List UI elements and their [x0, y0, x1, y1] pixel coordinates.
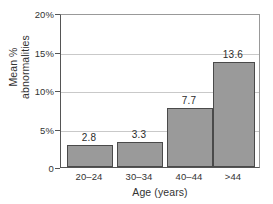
y-tick-label-15: 15% [24, 47, 54, 58]
bar-value-20-24: 2.8 [66, 132, 112, 143]
y-axis-tick-labels: 20% 15% 10% 5% 0 [22, 0, 54, 204]
y-tick-label-20: 20% [24, 9, 54, 20]
y-tick-label-5: 5% [24, 124, 54, 135]
bar-value-30-34: 3.3 [116, 129, 162, 140]
x-axis-title: Age (years) [60, 186, 260, 198]
x-tick-label-20-24: 20–24 [66, 171, 112, 182]
bar-value-over-44: 13.6 [212, 49, 254, 60]
y-tickmark-20 [55, 14, 60, 15]
y-tickmark-15 [55, 53, 60, 54]
bar-chart: Mean % abnormalities 20% 15% 10% 5% 0 2.… [0, 0, 273, 204]
y-axis-tick-marks [60, 14, 260, 168]
y-tick-label-0: 0 [24, 163, 54, 174]
y-tickmark-0 [55, 168, 60, 169]
x-tick-label-over-44: >44 [212, 171, 254, 182]
y-tickmark-5 [55, 130, 60, 131]
bar-value-40-44: 7.7 [166, 95, 212, 106]
x-tick-label-40-44: 40–44 [166, 171, 212, 182]
y-tickmark-10 [55, 91, 60, 92]
y-tick-label-10: 10% [24, 86, 54, 97]
x-tick-label-30-34: 30–34 [116, 171, 162, 182]
